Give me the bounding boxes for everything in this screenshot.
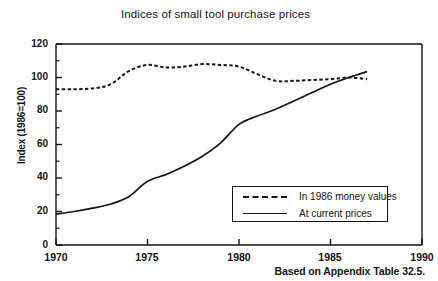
legend-entry-at-current-prices: At current prices bbox=[233, 205, 389, 223]
legend: In 1986 money values At current prices bbox=[232, 186, 388, 222]
x-tick-label-1990: 1990 bbox=[402, 251, 438, 263]
x-tick-label-1985: 1985 bbox=[310, 251, 350, 263]
y-tick-label-100: 100 bbox=[22, 71, 48, 82]
chart-title: Indices of small tool purchase prices bbox=[0, 8, 431, 20]
source-caption: Based on Appendix Table 32.5. bbox=[274, 265, 425, 277]
x-tick-label-1980: 1980 bbox=[219, 251, 259, 263]
series-line-0 bbox=[56, 64, 367, 89]
x-tick-label-1970: 1970 bbox=[36, 251, 76, 263]
legend-label-1: At current prices bbox=[299, 208, 372, 219]
legend-swatch-dashed-line bbox=[243, 196, 287, 200]
y-tick-label-40: 40 bbox=[22, 171, 48, 182]
y-tick-label-20: 20 bbox=[22, 205, 48, 216]
legend-entry-in-1986-money-values: In 1986 money values bbox=[233, 188, 389, 206]
y-tick-label-120: 120 bbox=[22, 38, 48, 49]
y-tick-label-0: 0 bbox=[22, 239, 48, 250]
legend-label-0: In 1986 money values bbox=[299, 191, 397, 202]
y-axis-label: Index (1986=100) bbox=[16, 71, 27, 181]
y-tick-label-80: 80 bbox=[22, 104, 48, 115]
legend-swatch-solid-line bbox=[243, 213, 287, 216]
y-tick-label-60: 60 bbox=[22, 138, 48, 149]
x-tick-label-1975: 1975 bbox=[127, 251, 167, 263]
